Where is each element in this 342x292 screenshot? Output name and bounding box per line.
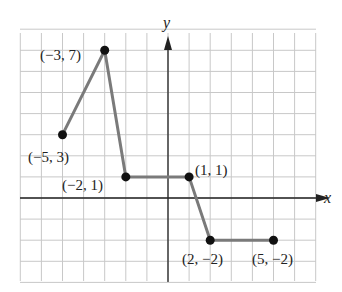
point-label: (2, −2) [182,251,223,268]
point-label: (−2, 1) [62,177,103,194]
data-point [269,236,278,245]
data-point [185,172,194,181]
point-label: (−5, 3) [28,149,69,166]
y-axis-arrow-icon [164,36,172,50]
data-point [100,46,109,55]
data-point [121,172,130,181]
coordinate-plane: x y (−5, 3) (−3, 7) (−2, 1) (1, 1) (2, −… [0,0,342,292]
data-point [58,130,67,139]
y-axis-label: y [161,14,171,32]
data-point [206,236,215,245]
point-label: (1, 1) [195,162,228,179]
point-label: (5, −2) [252,251,293,268]
x-axis-label: x [323,189,331,206]
point-label: (−3, 7) [40,47,81,64]
